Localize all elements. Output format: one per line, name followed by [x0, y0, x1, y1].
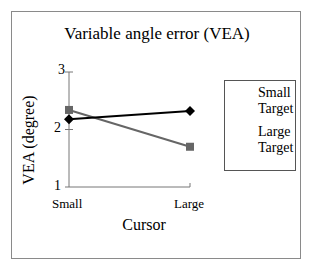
- x-tick-label-large: Large: [174, 196, 204, 212]
- diamond-marker-icon: [64, 114, 74, 124]
- legend-label-small-line1: Small: [258, 85, 291, 101]
- legend: Small Target Large Target: [224, 80, 296, 171]
- x-axis-label: Cursor: [84, 216, 204, 234]
- diamond-marker-icon: [185, 106, 195, 116]
- legend-label-small-line2: Target: [258, 101, 293, 117]
- square-marker-icon: [65, 106, 73, 114]
- y-tick-label-1: 1: [54, 178, 61, 194]
- series-layer: [64, 106, 195, 151]
- legend-label-large-line1: Large: [258, 124, 290, 140]
- y-tick-label-3: 3: [58, 62, 65, 78]
- x-tick-label-small: Small: [52, 196, 82, 212]
- legend-label-large-line2: Target: [258, 140, 293, 156]
- square-marker-icon: [186, 143, 194, 151]
- y-tick-label-2: 2: [54, 120, 61, 136]
